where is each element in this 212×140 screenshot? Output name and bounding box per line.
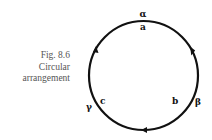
- circular-arrangement-diagram: α a b β c γ: [0, 0, 212, 140]
- node-outer-label-gamma: γ: [86, 102, 92, 112]
- node-inner-label-a: a: [140, 22, 146, 32]
- node-outer-label-beta: β: [195, 97, 201, 107]
- arrow-bottom-icon: [141, 127, 147, 133]
- cycle-circle: [89, 21, 198, 130]
- node-inner-label-b: b: [172, 96, 178, 106]
- node-inner-label-c: c: [100, 96, 106, 106]
- node-outer-label-alpha: α: [140, 9, 147, 19]
